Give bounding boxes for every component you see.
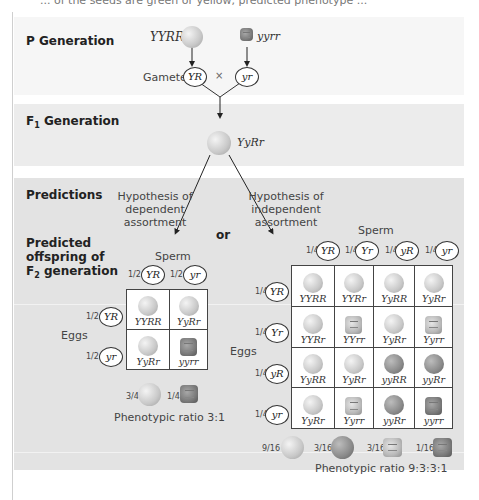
round-green-pea-icon [424,354,444,374]
wrinkled-green-pea-icon [180,338,197,356]
punnett-cell: YyRr [415,266,453,307]
round-yellow-pea-icon [303,273,323,293]
egg-fraction: 1/2 [86,312,99,321]
f1-genotype: YyRr [237,136,264,149]
cell-genotype: YyRr [127,356,169,369]
punnett-cell: YyRr [334,347,373,388]
wrinkled-yellow-pea-icon [383,438,402,457]
wrinkled-green-pea-icon [240,28,253,41]
round-yellow-pea-icon [303,354,323,374]
sperm-label: Sperm [358,224,394,237]
sperm-allele-circle: yR [395,241,419,261]
cell-genotype: YYRR [127,316,169,329]
egg-allele-circle: yR [265,364,289,384]
punnett-cell: yyrr [170,330,208,370]
round-yellow-pea-icon [424,273,444,293]
cell-genotype: YyRr [335,374,373,387]
egg-fraction: 1/2 [86,352,99,361]
round-yellow-pea-icon [384,273,404,293]
parent2-genotype: yyrr [257,30,280,43]
punnett-cell: YyRR [292,347,335,388]
round-yellow-pea-icon [181,26,203,48]
sperm-allele-circle: yr [435,241,459,261]
cell-genotype: YyRr [415,293,452,306]
round-yellow-pea-icon [138,296,158,316]
cell-genotype: yyrr [170,356,207,369]
sperm-allele-circle: yr [183,265,207,285]
eggs-label: Eggs [230,345,257,358]
egg-allele-circle: YR [99,307,123,327]
punnett-cell: YYRr [334,266,373,307]
cell-genotype: yyRr [374,415,415,428]
sperm-allele-circle: YR [141,265,165,285]
cell-genotype: YyRr [292,415,334,428]
or-label: or [216,228,230,242]
round-yellow-pea-icon [179,296,199,316]
sperm-allele-circle: Yr [355,241,379,261]
wrinkled-green-pea-icon [433,438,452,457]
cell-genotype: YYRR [292,293,334,306]
gamete-circle: yr [235,67,259,87]
dependent-hypothesis-label: Hypothesis ofdependent assortment [100,190,210,229]
egg-allele-circle: yr [99,347,123,367]
sperm-fraction: 1/2 [170,270,183,279]
phenotype-fraction: 3/16 [314,444,332,453]
cell-genotype: Yyrr [335,415,373,428]
punnett-cell: yyRR [373,347,415,388]
phenotype-fraction: 1/4 [167,392,180,401]
round-yellow-pea-icon [384,314,404,334]
round-yellow-pea-icon [303,395,323,415]
independent-punnett-square: YYRR YYRr YyRR YyRr YYRr YYrr YyRr Yyrr … [291,265,453,429]
round-yellow-pea-icon [281,436,304,459]
independent-hypothesis-label: Hypothesis ofindependent assortment [226,190,346,229]
cell-genotype: YYRr [335,293,373,306]
round-yellow-pea-icon [303,314,323,334]
cell-genotype: yyRr [415,374,452,387]
round-green-pea-icon [384,395,404,415]
wrinkled-yellow-pea-icon [345,397,362,415]
round-green-pea-icon [384,354,404,374]
cell-genotype: yyRR [374,374,415,387]
egg-allele-circle: Yr [265,323,289,343]
phenotype-fraction: 3/4 [126,392,139,401]
punnett-cell: YYRR [292,266,335,307]
punnett-cell: Yyrr [334,388,373,429]
sperm-label: Sperm [155,250,191,263]
cell-genotype: YyRr [374,334,415,347]
punnett-cell: YYRr [292,306,335,347]
cell-genotype: YyRr [170,316,207,329]
sperm-allele-circle: YR [316,241,340,261]
punnett-cell: YyRr [127,330,170,370]
phenotype-fraction: 9/16 [262,444,280,453]
gamete-circle: YR [183,67,207,87]
punnett-cell: yyRr [415,347,453,388]
punnett-cell: YYrr [334,306,373,347]
punnett-cell: YyRR [373,266,415,307]
round-yellow-pea-icon [344,354,364,374]
wrinkled-yellow-pea-icon [345,316,362,334]
cell-genotype: YyRR [374,293,415,306]
punnett-cell: YyRr [292,388,335,429]
egg-allele-circle: YR [265,282,289,302]
cell-genotype: YYRr [292,334,334,347]
phenotype-fraction: 1/16 [416,444,434,453]
egg-allele-circle: yr [265,405,289,425]
punnett-cell: YYRR [127,290,170,330]
eggs-label: Eggs [61,329,88,342]
sperm-fraction: 1/2 [128,270,141,279]
dependent-phenotypic-ratio: Phenotypic ratio 3:1 [114,411,225,424]
cell-genotype: yyrr [415,415,452,428]
round-yellow-pea-icon [138,383,161,406]
f1-round-yellow-pea-icon [207,131,231,155]
dependent-punnett-square: YYRR YyRr YyRr yyrr [126,289,208,370]
independent-phenotypic-ratio: Phenotypic ratio 9:3:3:1 [315,462,447,475]
wrinkled-green-pea-icon [425,397,442,415]
cell-genotype: YYrr [335,334,373,347]
cell-genotype: YyRR [292,374,334,387]
round-green-pea-icon [331,436,354,459]
punnett-cell: yyrr [415,388,453,429]
punnett-cell: yyRr [373,388,415,429]
round-yellow-pea-icon [138,336,158,356]
punnett-cell: YyRr [373,306,415,347]
cell-genotype: Yyrr [415,334,452,347]
